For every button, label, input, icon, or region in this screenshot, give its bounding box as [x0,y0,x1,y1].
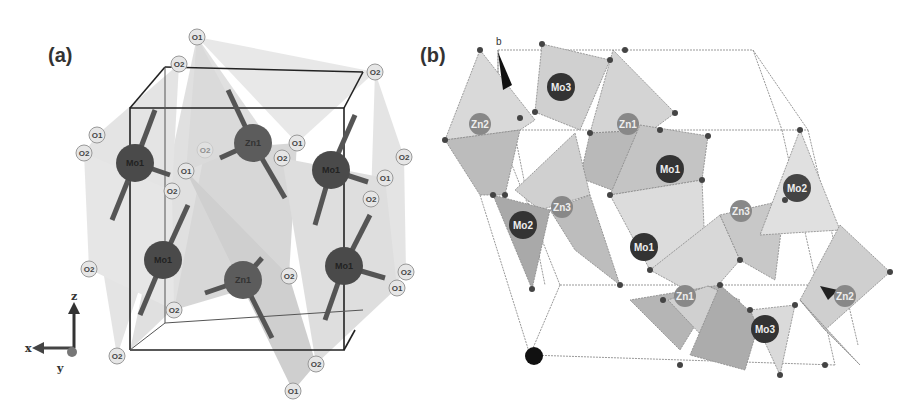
atom-mo1: Mo1 [656,155,684,183]
atom-o: O1 [289,135,305,151]
atom-zn2: Zn2 [834,285,856,307]
svg-text:Zn2: Zn2 [471,119,489,130]
svg-text:Mo3: Mo3 [755,324,775,335]
svg-text:O2: O2 [112,352,123,361]
svg-text:Zn3: Zn3 [732,206,750,217]
atom-zn3: Zn3 [730,200,752,222]
atom-o: O1 [377,170,393,186]
atom-mo1: Mo1 [312,151,350,189]
atom-o: O1 [89,127,105,143]
svg-text:Mo3: Mo3 [551,82,571,93]
axes-indicator: z x y [25,290,80,375]
atom-o: O2 [367,64,383,80]
atom-mo3: Mo3 [547,73,575,101]
svg-text:O1: O1 [92,131,103,140]
svg-text:O2: O2 [284,272,295,281]
atom-o: O2 [396,149,412,165]
atom-zn2: Zn2 [469,113,491,135]
atom-mo3: Mo3 [751,315,779,343]
panel-a: (a) [0,0,430,414]
atom-mo1: Mo1 [144,241,182,279]
svg-text:O1: O1 [380,174,391,183]
atom-mo2: Mo2 [509,211,537,239]
atom-mo2: Mo2 [783,174,811,202]
atom-o: O2 [398,264,414,280]
atom-zn1: Zn1 [234,124,272,162]
atom-mo1: Mo1 [325,247,363,285]
svg-text:O1: O1 [392,284,403,293]
axis-b-label: b [496,36,502,47]
polyhedra [445,44,890,375]
svg-text:Mo1: Mo1 [154,255,172,265]
atom-o: O2 [197,142,213,158]
svg-text:Mo1: Mo1 [634,242,654,253]
atom-o: O2 [81,261,97,277]
atom-o: O1 [389,280,405,296]
svg-text:O2: O2 [169,306,180,315]
axis-z-label: z [71,290,77,303]
svg-text:O1: O1 [292,139,303,148]
crystal-structure-a: Mo1 Zn1 Mo1 Mo1 Zn1 Mo1 O1 O2 O2 O1 O2 O… [0,0,430,414]
svg-text:Zn1: Zn1 [676,291,694,302]
atom-o: O2 [76,145,92,161]
svg-text:O2: O2 [79,149,90,158]
svg-text:Zn3: Zn3 [553,202,571,213]
atom-zn3: Zn3 [551,196,573,218]
polyhedra [84,37,406,391]
svg-text:O2: O2 [366,195,377,204]
atom-zn1: Zn1 [674,285,696,307]
atom-o: O1 [285,383,301,399]
atom-o: O2 [363,191,379,207]
svg-text:O2: O2 [84,265,95,274]
axis-y-label: y [56,362,64,375]
origin-atom [525,347,543,365]
svg-text:Zn1: Zn1 [235,275,251,285]
svg-text:O1: O1 [288,387,299,396]
svg-text:O2: O2 [399,153,410,162]
atom-o: O1 [189,29,205,45]
atom-o: O2 [274,150,290,166]
atom-o: O2 [281,268,297,284]
atom-o: O2 [109,348,125,364]
svg-text:Mo2: Mo2 [787,183,807,194]
atom-o: O1 [178,163,194,179]
panel-b: (b) [420,0,924,414]
crystal-structure-b: b Mo3 Zn2 Zn1 Mo1 Mo2 Mo2 Zn3 Zn3 Mo1 Zn… [420,0,924,414]
svg-text:O2: O2 [174,60,185,69]
svg-text:Mo1: Mo1 [660,164,680,175]
atom-o: O2 [171,56,187,72]
svg-text:O1: O1 [181,167,192,176]
axis-x-label: x [25,342,32,355]
svg-text:Mo2: Mo2 [513,220,533,231]
svg-text:Mo1: Mo1 [322,165,340,175]
svg-text:O2: O2 [370,68,381,77]
atom-o: O2 [164,183,180,199]
atom-mo1: Mo1 [116,144,154,182]
atom-mo1: Mo1 [630,233,658,261]
atom-zn1: Zn1 [617,113,639,135]
svg-text:O1: O1 [192,33,203,42]
svg-text:Zn1: Zn1 [619,119,637,130]
atom-zn1: Zn1 [224,261,262,299]
svg-text:O2: O2 [200,146,211,155]
svg-text:O2: O2 [167,187,178,196]
svg-text:Mo1: Mo1 [335,261,353,271]
svg-text:O2: O2 [311,360,322,369]
svg-text:Zn2: Zn2 [836,291,854,302]
svg-text:O2: O2 [277,154,288,163]
svg-text:Zn1: Zn1 [245,138,261,148]
atom-o: O2 [166,302,182,318]
atom-o: O2 [308,356,324,372]
svg-text:O2: O2 [401,268,412,277]
svg-text:Mo1: Mo1 [126,158,144,168]
